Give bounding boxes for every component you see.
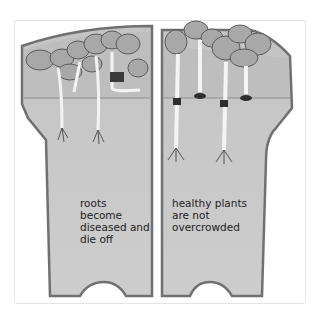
right-pot-label: healthy plants are not overcrowded bbox=[172, 197, 247, 233]
left-pot bbox=[22, 26, 152, 296]
right-pot bbox=[162, 21, 292, 296]
label-line: are not bbox=[172, 209, 247, 221]
label-line: roots bbox=[80, 197, 150, 209]
label-line: diseased and bbox=[80, 221, 150, 233]
label-line: become bbox=[80, 209, 150, 221]
left-pot-label: roots become diseased and die off bbox=[80, 197, 150, 245]
label-line: die off bbox=[80, 233, 150, 245]
label-line: healthy plants bbox=[172, 197, 247, 209]
label-line: overcrowded bbox=[172, 221, 247, 233]
pot-comparison-illustration bbox=[0, 0, 316, 318]
